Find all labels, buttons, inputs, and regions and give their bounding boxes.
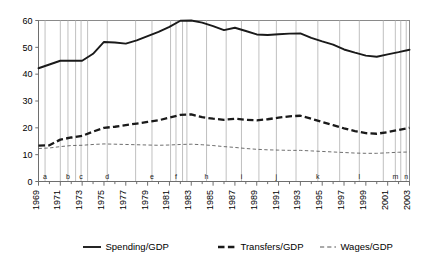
event-marker-label: c (79, 173, 83, 180)
x-axis-tick-label: 1983 (183, 190, 193, 210)
event-marker-label: e (150, 173, 154, 180)
y-axis-tick-label: 20 (22, 123, 32, 133)
x-axis-tick-label: 1977 (118, 190, 128, 210)
x-axis-tick-label: 1995 (314, 190, 324, 210)
legend-label-spending-gdp: Spending/GDP (106, 241, 169, 252)
y-axis-tick-label: 60 (22, 16, 32, 26)
y-axis-tick-label: 10 (22, 150, 32, 160)
x-axis-tick-label: 1975 (96, 190, 106, 210)
event-marker-label: m (392, 173, 398, 180)
event-marker-label: j (275, 173, 278, 181)
x-axis-tick-label: 1973 (74, 190, 84, 210)
event-marker-label: k (316, 173, 320, 180)
event-marker-label: f (175, 173, 177, 180)
legend-label-wages-gdp: Wages/GDP (341, 241, 393, 252)
x-axis-tick-label: 1999 (358, 190, 368, 210)
x-axis-tick-label: 1997 (336, 190, 346, 210)
x-axis-tick-label: 1985 (205, 190, 215, 210)
x-axis-tick-label: 1969 (31, 190, 41, 210)
event-marker-label: d (105, 173, 109, 180)
event-marker-label: b (66, 173, 70, 180)
event-marker-label: a (43, 173, 47, 180)
chart-background (0, 0, 430, 262)
legend-label-transfers-gdp: Transfers/GDP (241, 241, 304, 252)
x-axis-tick-label: 2003 (402, 190, 412, 210)
x-axis-tick-label: 1993 (292, 190, 302, 210)
chart-container: 0102030405060 19691971197319751977197919… (0, 0, 430, 262)
event-marker-label: n (404, 173, 408, 180)
y-axis-tick-label: 40 (22, 69, 32, 79)
x-axis-tick-label: 1979 (140, 190, 150, 210)
event-marker-label: h (205, 173, 209, 180)
x-axis-tick-label: 2001 (380, 190, 390, 210)
x-axis-tick-label: 1981 (161, 190, 171, 210)
x-axis-tick-label: 1989 (249, 190, 259, 210)
y-axis-tick-label: 30 (22, 96, 32, 106)
y-axis-tick-label: 50 (22, 43, 32, 53)
x-axis-tick-label: 1987 (227, 190, 237, 210)
y-axis-tick-label: 0 (27, 177, 32, 187)
line-chart: 0102030405060 19691971197319751977197919… (0, 0, 430, 262)
x-axis-tick-label: 1991 (271, 190, 281, 210)
x-axis-tick-label: 1971 (52, 190, 62, 210)
